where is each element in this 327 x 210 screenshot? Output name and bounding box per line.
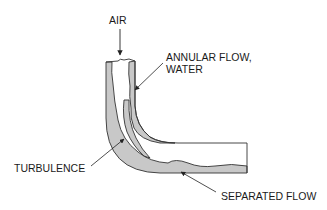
separated-leader-arrow (181, 172, 216, 192)
label-water: WATER (166, 63, 203, 75)
pipe-flow-diagram: AIR ANNULAR FLOW, WATER TURBULENCE SEPAR… (0, 0, 327, 210)
annular-leader-arrow (135, 63, 163, 90)
label-annular-flow: ANNULAR FLOW, (166, 51, 252, 63)
label-turbulence: TURBULENCE (14, 162, 85, 174)
pipe-inner-wall (135, 61, 247, 173)
label-air: AIR (109, 14, 127, 26)
label-separated-flow: SEPARATED FLOW (221, 190, 316, 202)
